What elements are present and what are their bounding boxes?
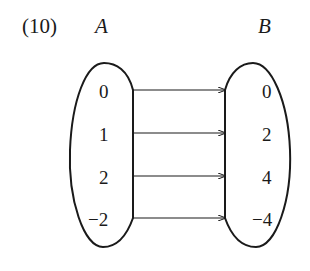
set-b-element: −4 xyxy=(252,209,273,230)
set-b-label: B xyxy=(258,14,271,38)
set-a-element: 0 xyxy=(99,81,109,102)
mapping-diagram: (10) A B 0 1 2 −2 0 2 4 −4 xyxy=(0,0,310,271)
set-a-element: 1 xyxy=(99,124,109,145)
set-a-element: −2 xyxy=(88,209,108,230)
set-a-label: A xyxy=(93,14,108,38)
problem-label: (10) xyxy=(22,14,57,38)
set-b-element: 2 xyxy=(262,124,272,145)
set-b-element: 4 xyxy=(262,167,272,188)
set-a-element: 2 xyxy=(99,167,109,188)
set-b-element: 0 xyxy=(262,81,272,102)
